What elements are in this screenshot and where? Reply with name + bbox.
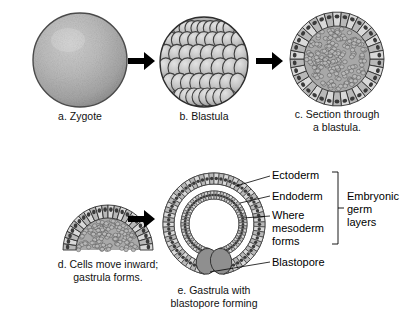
germ-layers-bracket (332, 172, 344, 244)
label-blastopore: Blastopore (272, 256, 325, 269)
label-ectoderm: Ectoderm (272, 169, 319, 182)
leader-blastopore (210, 262, 270, 272)
leader-ectoderm (236, 176, 270, 186)
leader-endoderm (240, 196, 270, 203)
figure-canvas: a. Zygote b. Blastula (0, 0, 414, 336)
leader-lines (0, 0, 414, 336)
label-mesoderm: Where mesoderm forms (272, 209, 324, 248)
label-germ-layers: Embryonic germ layers (347, 190, 399, 229)
leader-mesoderm (243, 216, 270, 218)
label-endoderm: Endoderm (272, 190, 323, 203)
